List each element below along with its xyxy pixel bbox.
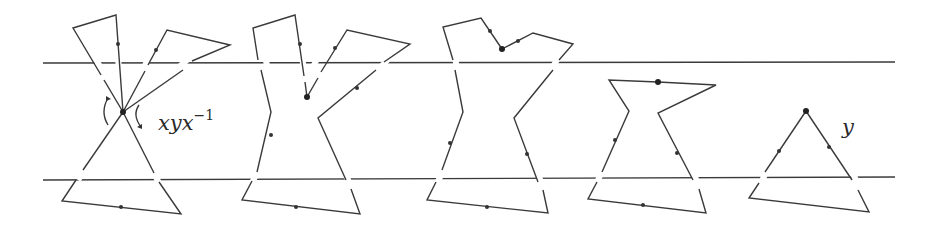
stage-3-loop bbox=[427, 18, 573, 213]
label-exponent: −1 bbox=[194, 107, 215, 123]
strip-bottom-line bbox=[43, 177, 895, 180]
arc-arrow-left-icon bbox=[104, 98, 108, 125]
basepoint-dot bbox=[304, 94, 310, 100]
homotopy-diagram bbox=[0, 0, 937, 228]
basepoint-dot bbox=[499, 46, 505, 52]
basepoint-dot bbox=[120, 109, 126, 115]
arc-arrow-right-icon bbox=[136, 105, 141, 127]
label-base: xyx bbox=[158, 111, 194, 135]
stage-4-loop bbox=[588, 79, 716, 213]
basepoint-dot bbox=[803, 108, 809, 114]
strip-top-line bbox=[43, 62, 895, 63]
loop-label-y: y bbox=[842, 117, 854, 138]
basepoint-dot bbox=[655, 79, 661, 85]
stage-2-loop bbox=[242, 15, 410, 214]
loop-label-xyx-inverse: xyx−1 bbox=[158, 110, 214, 134]
